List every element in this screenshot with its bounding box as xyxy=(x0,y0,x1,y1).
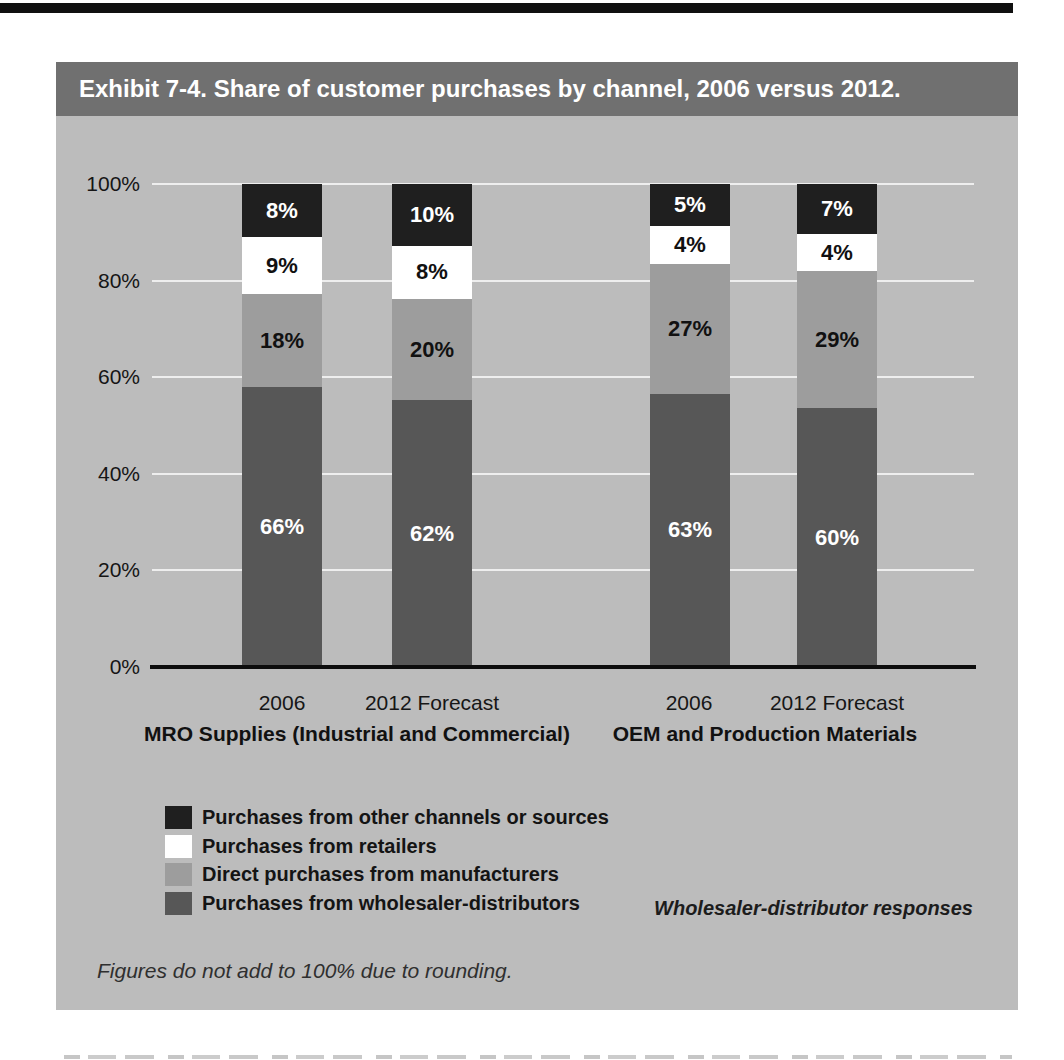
legend-label: Purchases from wholesaler-distributors xyxy=(202,892,580,915)
legend-swatch-icon xyxy=(165,835,192,858)
bar-value-label: 18% xyxy=(260,330,304,352)
bar-segment: 8% xyxy=(392,246,472,300)
bar-value-label: 9% xyxy=(266,255,298,277)
stacked-bar: 5%4%27%63% xyxy=(650,184,730,667)
scan-artifact-top-bar xyxy=(0,3,1013,13)
y-axis-tick-label: 20% xyxy=(36,558,140,582)
bar-value-label: 63% xyxy=(668,519,712,541)
legend-swatch-icon xyxy=(165,806,192,829)
bar-segment: 20% xyxy=(392,299,472,400)
scan-artifact-cropped-text xyxy=(64,1055,1012,1059)
bar-segment: 9% xyxy=(242,237,322,294)
legend-label: Purchases from other channels or sources xyxy=(202,806,609,829)
source-note: Wholesaler-distributor responses xyxy=(573,896,973,920)
x-axis-line xyxy=(150,665,976,669)
exhibit-title-bar: Exhibit 7-4. Share of customer purchases… xyxy=(56,62,1018,116)
bar-segment: 8% xyxy=(242,184,322,237)
bar-segment: 66% xyxy=(242,387,322,667)
category-label: 2012 Forecast xyxy=(342,690,522,716)
legend-swatch-icon xyxy=(165,892,192,915)
stacked-bar: 10%8%20%62% xyxy=(392,184,472,667)
y-axis-tick-label: 100% xyxy=(36,172,140,196)
y-axis-tick-label: 80% xyxy=(36,269,140,293)
bar-value-label: 66% xyxy=(260,516,304,538)
bar-segment: 4% xyxy=(650,226,730,264)
bar-segment: 29% xyxy=(797,271,877,408)
exhibit-title: Exhibit 7-4. Share of customer purchases… xyxy=(79,75,901,102)
bar-value-label: 60% xyxy=(815,527,859,549)
stacked-bar: 8%9%18%66% xyxy=(242,184,322,667)
bar-value-label: 29% xyxy=(815,329,859,351)
legend-label: Purchases from retailers xyxy=(202,835,437,858)
bar-value-label: 7% xyxy=(821,198,853,220)
bar-value-label: 8% xyxy=(416,261,448,283)
legend-swatch-icon xyxy=(165,863,192,886)
scanned-exhibit-page: Exhibit 7-4. Share of customer purchases… xyxy=(0,0,1064,1060)
bar-value-label: 4% xyxy=(674,234,706,256)
group-label: OEM and Production Materials xyxy=(525,721,1005,747)
bar-segment: 5% xyxy=(650,184,730,226)
bar-segment: 4% xyxy=(797,234,877,272)
bar-value-label: 62% xyxy=(410,523,454,545)
bar-value-label: 27% xyxy=(668,318,712,340)
category-label: 2012 Forecast xyxy=(747,690,927,716)
bar-segment: 63% xyxy=(650,394,730,667)
bar-value-label: 10% xyxy=(410,204,454,226)
legend-label: Direct purchases from manufacturers xyxy=(202,863,559,886)
y-axis-tick-label: 40% xyxy=(36,462,140,486)
y-axis-tick-label: 0% xyxy=(36,655,140,679)
bar-segment: 60% xyxy=(797,408,877,667)
bar-segment: 18% xyxy=(242,294,322,386)
stacked-bar: 7%4%29%60% xyxy=(797,184,877,667)
rounding-footnote: Figures do not add to 100% due to roundi… xyxy=(97,958,513,983)
bar-value-label: 4% xyxy=(821,242,853,264)
bar-segment: 7% xyxy=(797,184,877,234)
bar-value-label: 20% xyxy=(410,339,454,361)
bar-value-label: 5% xyxy=(674,194,706,216)
bar-segment: 27% xyxy=(650,264,730,394)
bar-segment: 10% xyxy=(392,184,472,246)
bar-segment: 62% xyxy=(392,400,472,667)
y-axis-tick-label: 60% xyxy=(36,365,140,389)
bar-value-label: 8% xyxy=(266,200,298,222)
